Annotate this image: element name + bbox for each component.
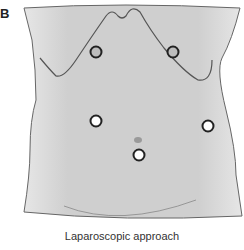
mid-left-port-icon [91, 116, 102, 127]
upper-left-port-icon [91, 47, 102, 58]
torso-diagram [0, 0, 244, 250]
mid-right-port-icon [203, 121, 214, 132]
lower-center-port-icon [134, 150, 145, 161]
upper-right-port-icon [168, 47, 179, 58]
navel-icon [134, 137, 142, 143]
figure-caption: Laparoscopic approach [0, 230, 244, 242]
torso-outline [24, 5, 242, 218]
